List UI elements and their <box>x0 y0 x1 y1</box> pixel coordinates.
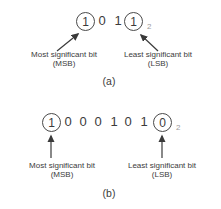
bit-a-3: 1 <box>130 15 137 29</box>
bit-a-1: 0 <box>95 12 109 30</box>
bit-b-5: 0 <box>121 113 135 131</box>
bit-b-0: 1 <box>48 116 55 130</box>
bit-b-4: 1 <box>107 113 121 131</box>
lsb-circle-b: 0 <box>153 113 172 132</box>
msb-circle-b: 1 <box>42 113 61 132</box>
msb-label-b: Most significant bit (MSB) <box>10 161 114 179</box>
base-subscript-a: 2 <box>147 22 151 31</box>
lsb-arrow-a <box>141 35 158 51</box>
lsb-circle-a: 1 <box>124 12 143 31</box>
bit-b-1: 0 <box>61 113 75 131</box>
bit-b-6: 1 <box>137 113 151 131</box>
bit-b-7: 0 <box>159 116 166 130</box>
base-subscript-b: 2 <box>176 123 180 132</box>
msb-label-a-line2: (MSB) <box>12 59 116 68</box>
caption-b: (b) <box>79 187 139 199</box>
caption-a: (a) <box>79 75 139 87</box>
bit-b-3: 0 <box>91 113 105 131</box>
bit-b-2: 0 <box>76 113 90 131</box>
lsb-label-a-line1: Least significant bit <box>106 50 210 59</box>
msb-circle-a: 1 <box>76 12 95 31</box>
binary-msb-lsb-figure: 1 0 1 1 2 Most significant bit (MSB) Lea… <box>0 0 221 209</box>
bit-a-2: 1 <box>111 12 125 30</box>
lsb-label-b-line2: (LSB) <box>110 170 214 179</box>
lsb-label-b-line1: Least significant bit <box>110 161 214 170</box>
msb-label-a-line1: Most significant bit <box>12 50 116 59</box>
msb-arrow-a <box>57 34 78 51</box>
lsb-label-b: Least significant bit (LSB) <box>110 161 214 179</box>
msb-label-a: Most significant bit (MSB) <box>12 50 116 68</box>
lsb-label-a-line2: (LSB) <box>106 59 210 68</box>
lsb-label-a: Least significant bit (LSB) <box>106 50 210 68</box>
msb-label-b-line2: (MSB) <box>10 170 114 179</box>
msb-label-b-line1: Most significant bit <box>10 161 114 170</box>
bit-a-0: 1 <box>82 15 89 29</box>
